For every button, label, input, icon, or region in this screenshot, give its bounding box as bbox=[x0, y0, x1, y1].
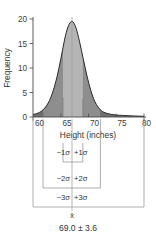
y-axis: 20 15 10 5 0 Frequency bbox=[2, 15, 33, 122]
x-tick-label-75: 75 bbox=[118, 119, 128, 128]
x-tick-label-65: 65 bbox=[63, 119, 73, 128]
x-tick-label-80: 80 bbox=[142, 119, 152, 128]
y-tick-label-15: 15 bbox=[18, 40, 28, 49]
mean-symbol-label: x̄ bbox=[70, 211, 74, 220]
distribution-bands bbox=[33, 21, 144, 117]
sigma3-left-label: −3σ bbox=[57, 193, 71, 202]
sigma2-left-label: −2σ bbox=[57, 174, 71, 183]
x-axis-title: Height (inches) bbox=[60, 130, 117, 140]
sigma1-left-label: −1σ bbox=[57, 148, 71, 157]
y-axis-title: Frequency bbox=[2, 47, 12, 87]
y-tick-label-20: 20 bbox=[18, 15, 28, 24]
x-axis: 60 65 70 75 80 Height (inches) bbox=[33, 114, 152, 140]
sigma2-right-label: +2σ bbox=[74, 174, 88, 183]
y-tick-label-0: 0 bbox=[22, 113, 27, 122]
y-tick-label-5: 5 bbox=[22, 89, 27, 98]
chart-svg: 20 15 10 5 0 Frequency 60 65 70 75 80 He… bbox=[0, 0, 156, 237]
normal-distribution-figure: 20 15 10 5 0 Frequency 60 65 70 75 80 He… bbox=[0, 0, 156, 237]
x-tick-label-70: 70 bbox=[90, 119, 100, 128]
sigma3-right-label: +3σ bbox=[74, 193, 88, 202]
y-tick-label-10: 10 bbox=[18, 64, 28, 73]
band-2sigma-area bbox=[33, 21, 144, 117]
sigma1-right-label: +1σ bbox=[74, 148, 88, 157]
summary-value-label: 69.0 ± 3.6 bbox=[59, 223, 97, 233]
